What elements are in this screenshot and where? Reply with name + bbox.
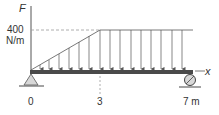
position-label-0: 0 (28, 97, 34, 107)
position-label-7m: 7 m (183, 97, 200, 107)
ramp-load-arrows (40, 30, 100, 69)
uniform-load-arrows (110, 30, 182, 69)
load-unit-label: N/m (6, 36, 24, 46)
beam (30, 70, 193, 74)
x-axis-label: x (205, 66, 211, 77)
pin-support (19, 74, 44, 86)
roller-support (179, 75, 201, 88)
position-label-3: 3 (97, 97, 103, 107)
load-value-label: 400 (7, 25, 24, 35)
load-envelope (31, 30, 193, 70)
force-axis-label: F (19, 3, 26, 14)
